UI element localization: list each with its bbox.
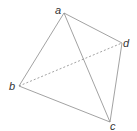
edge-ab bbox=[19, 13, 64, 86]
vertex-label-d: d bbox=[123, 37, 130, 49]
vertex-label-a: a bbox=[55, 4, 61, 16]
edge-ac bbox=[64, 13, 110, 122]
vertex-label-b: b bbox=[9, 80, 15, 92]
edge-bc bbox=[19, 86, 110, 122]
edge-ad bbox=[64, 13, 122, 43]
vertex-label-c: c bbox=[110, 120, 116, 131]
edge-cd bbox=[110, 43, 122, 122]
edge-bd-hidden bbox=[19, 43, 122, 86]
tetrahedron-diagram: a b c d bbox=[0, 0, 137, 131]
